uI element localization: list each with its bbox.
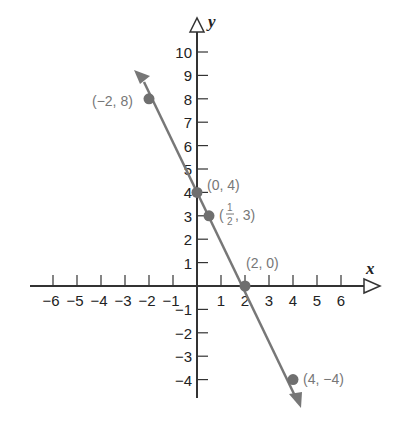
- data-point: [192, 187, 203, 198]
- y-tick-label: −1: [175, 301, 192, 318]
- data-points: [144, 93, 299, 385]
- data-point: [288, 374, 299, 385]
- x-axis-arrow-icon: [364, 279, 380, 293]
- data-point: [204, 210, 215, 221]
- x-tick-labels: −6−5−4−3−2−1123456: [42, 292, 345, 309]
- y-tick-label: −4: [175, 372, 192, 389]
- y-tick-label: 7: [184, 114, 192, 131]
- y-tick-label: 10: [175, 44, 192, 61]
- y-tick-label: −3: [175, 348, 192, 365]
- point-label: (4, −4): [303, 371, 344, 387]
- line-arrow-up-icon: [134, 70, 150, 84]
- y-axis-label: y: [206, 12, 216, 31]
- x-tick-label: 3: [265, 292, 273, 309]
- y-tick-label: 9: [184, 67, 192, 84]
- y-tick-label: 3: [184, 208, 192, 225]
- x-axis-label: x: [365, 259, 375, 278]
- x-tick-label: −5: [66, 292, 83, 309]
- x-tick-label: −3: [114, 292, 131, 309]
- data-point: [144, 93, 155, 104]
- point-label: (−2, 8): [92, 93, 133, 109]
- line-series: [144, 82, 295, 396]
- x-tick-label: −2: [138, 292, 155, 309]
- y-tick-labels: −4−3−2−112345678910: [175, 44, 192, 389]
- x-tick-label: 5: [313, 292, 321, 309]
- x-tick-label: 4: [289, 292, 297, 309]
- x-tick-label: 6: [337, 292, 345, 309]
- chart: −6−5−4−3−2−1123456 −4−3−2−112345678910 x…: [0, 0, 393, 430]
- point-label: (0, 4): [207, 177, 240, 193]
- point-label: 1: [227, 202, 233, 213]
- y-tick-label: 1: [184, 255, 192, 272]
- y-tick-label: −2: [175, 325, 192, 342]
- y-tick-label: 8: [184, 91, 192, 108]
- point-label: (: [219, 207, 224, 223]
- point-label: (2, 0): [246, 255, 279, 271]
- y-tick-label: 6: [184, 138, 192, 155]
- y-tick-label: 2: [184, 231, 192, 248]
- x-tick-label: −6: [42, 292, 59, 309]
- line-arrow-down-icon: [289, 392, 302, 408]
- x-tick-label: −4: [90, 292, 107, 309]
- data-point: [240, 281, 251, 292]
- point-label: 2: [227, 216, 233, 227]
- x-tick-label: 1: [217, 292, 225, 309]
- y-axis-arrow-icon: [190, 18, 204, 32]
- y-tick-label: 4: [184, 184, 192, 201]
- point-label: , 3): [235, 207, 255, 223]
